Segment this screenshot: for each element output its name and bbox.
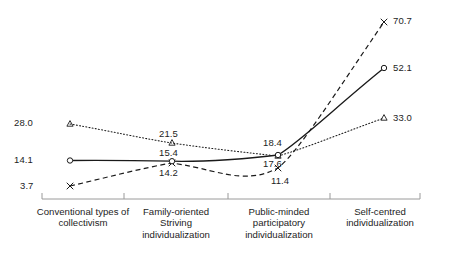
marker-circle-1 <box>67 158 72 163</box>
marker-triangle-1 <box>67 121 73 127</box>
data-label-3-7: 3.7 <box>20 181 34 191</box>
marker-circle-4 <box>381 65 386 70</box>
x-axis <box>42 193 420 199</box>
data-label-14-2: 14.2 <box>159 168 178 178</box>
data-label-17-6: 17.6 <box>263 159 282 169</box>
x-category-label-1: Conventional types of collectivism <box>22 206 144 229</box>
marker-triangle-4 <box>381 115 387 121</box>
series-cross-dashed <box>67 19 387 189</box>
x-category-label-3: Public-minded participatory individualiz… <box>230 206 328 240</box>
series-circle-solid <box>67 65 386 164</box>
x-category-label-4: Self-centred individualization <box>332 206 428 229</box>
line-chart: 28.0 14.1 3.7 21.5 15.4 14.2 18.4 17.6 1… <box>0 0 450 260</box>
data-label-11-4: 11.4 <box>271 176 289 186</box>
data-label-33-0: 33.0 <box>393 113 412 123</box>
data-label-18-4: 18.4 <box>263 138 282 148</box>
data-label-28-0: 28.0 <box>14 118 33 128</box>
data-label-15-4: 15.4 <box>159 148 178 158</box>
marker-circle-2 <box>169 159 174 164</box>
series-triangle-dotted-line <box>70 118 384 156</box>
data-label-14-1: 14.1 <box>14 155 33 165</box>
marker-cross-4 <box>381 19 387 25</box>
data-label-21-5: 21.5 <box>159 129 178 139</box>
x-category-label-2: Family-oriented Striving individualizati… <box>128 206 224 240</box>
series-triangle-dotted <box>67 115 387 159</box>
marker-triangle-2 <box>169 140 175 146</box>
data-label-70-7: 70.7 <box>393 16 412 26</box>
data-label-52-1: 52.1 <box>393 63 412 73</box>
series-cross-dashed-line <box>70 22 384 186</box>
series-circle-solid-line <box>70 68 384 161</box>
marker-circle-3 <box>275 152 280 157</box>
